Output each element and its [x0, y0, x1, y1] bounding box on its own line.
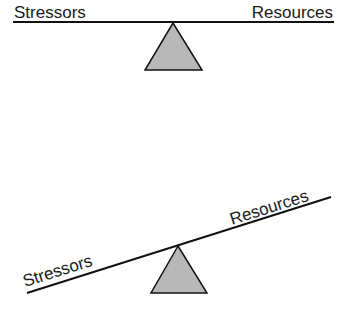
balance-diagram: Stressors Resources Stressors Resources [0, 0, 362, 323]
tilted-right-label: Resources [227, 186, 310, 229]
balanced-left-label: Stressors [14, 3, 86, 22]
tilted-seesaw: Stressors Resources [20, 186, 331, 293]
balanced-right-label: Resources [252, 3, 333, 22]
tilted-fulcrum-icon [151, 246, 207, 293]
balanced-seesaw: Stressors Resources [13, 3, 334, 70]
diagram-svg: Stressors Resources Stressors Resources [0, 0, 362, 323]
balanced-fulcrum-icon [145, 23, 202, 70]
tilted-left-label: Stressors [20, 251, 94, 291]
